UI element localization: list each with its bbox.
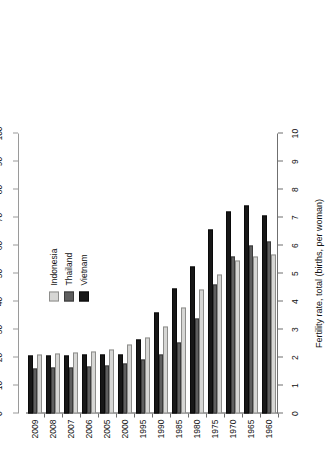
category-tick [44, 413, 45, 417]
category-tick [278, 413, 279, 417]
bar-indonesia-2009 [37, 354, 41, 413]
percent-tick [13, 188, 18, 189]
category-tick [80, 413, 81, 417]
category-label-1985: 1985 [174, 419, 184, 447]
percent-population-axis: 0102030405060708090100 [18, 133, 19, 413]
fertility-tick-label: 1 [290, 372, 300, 398]
legend-item-thailand[interactable]: Thailand [63, 248, 74, 301]
category-label-2006: 2006 [84, 419, 94, 447]
fertility-tick [278, 216, 283, 217]
percent-tick-label: 20 [0, 342, 4, 372]
bar-indonesia-1970 [235, 260, 239, 413]
percent-tick-label: 80 [0, 174, 4, 204]
category-tick [224, 413, 225, 417]
fertility-tick-label: 5 [290, 260, 300, 286]
fertility-tick [278, 244, 283, 245]
fertility-tick [278, 188, 283, 189]
fertility-tick [278, 384, 283, 385]
legend-swatch-thailand [64, 291, 74, 301]
percent-tick [13, 132, 18, 133]
fertility-tick-label: 2 [290, 344, 300, 370]
percent-tick-label: 60 [0, 230, 4, 260]
percent-tick-label: 50 [0, 258, 4, 288]
fertility-tick-label: 8 [290, 176, 300, 202]
bar-indonesia-2008 [55, 353, 59, 413]
percent-tick-label: 100 [0, 118, 4, 148]
category-tick [62, 413, 63, 417]
fertility-tick-label: 7 [290, 204, 300, 230]
category-label-2009: 2009 [30, 419, 40, 447]
legend-swatch-indonesia [49, 291, 59, 301]
percent-tick [13, 272, 18, 273]
legend-item-indonesia[interactable]: Indonesia [48, 248, 59, 301]
percent-tick-label: 40 [0, 286, 4, 316]
fertility-tick [278, 328, 283, 329]
percent-tick-label: 30 [0, 314, 4, 344]
fertility-tick-label: 9 [290, 148, 300, 174]
fertility-tick-label: 0 [290, 400, 300, 426]
percent-tick [13, 412, 18, 413]
fertility-tick [278, 160, 283, 161]
category-label-1990: 1990 [156, 419, 166, 447]
percent-tick [13, 356, 18, 357]
category-tick [260, 413, 261, 417]
percent-tick-label: 10 [0, 370, 4, 400]
percent-tick [13, 160, 18, 161]
fertility-tick [278, 272, 283, 273]
percent-tick [13, 300, 18, 301]
fertility-tick-label: 3 [290, 316, 300, 342]
bar-indonesia-2000 [127, 344, 131, 413]
bar-indonesia-1960 [271, 254, 275, 413]
bar-indonesia-2007 [73, 352, 77, 413]
category-tick [116, 413, 117, 417]
category-tick [152, 413, 153, 417]
chart-legend: IndonesiaThailandVietnam [48, 248, 93, 301]
percent-tick [13, 244, 18, 245]
percent-tick-label: 0 [0, 398, 4, 428]
category-label-2007: 2007 [66, 419, 76, 447]
category-tick [170, 413, 171, 417]
percent-tick-label: 70 [0, 202, 4, 232]
bar-indonesia-1990 [163, 326, 167, 413]
category-label-1975: 1975 [210, 419, 220, 447]
category-label-1995: 1995 [138, 419, 148, 447]
fertility-tick [278, 356, 283, 357]
category-label-1970: 1970 [228, 419, 238, 447]
legend-label-indonesia: Indonesia [49, 248, 59, 285]
legend-label-thailand: Thailand [64, 252, 74, 285]
percent-tick-label: 90 [0, 146, 4, 176]
category-label-2005: 2005 [102, 419, 112, 447]
category-tick [242, 413, 243, 417]
fertility-tick-label: 4 [290, 288, 300, 314]
category-label-2008: 2008 [48, 419, 58, 447]
legend-item-vietnam[interactable]: Vietnam [78, 248, 89, 301]
legend-label-vietnam: Vietnam [79, 254, 89, 285]
bar-indonesia-1995 [145, 337, 149, 413]
chart-stage: 0102030405060708090100 % of population 0… [0, 0, 336, 469]
fertility-tick [278, 132, 283, 133]
category-label-1965: 1965 [246, 419, 256, 447]
fertility-tick-label: 10 [290, 120, 300, 146]
fertility-tick [278, 300, 283, 301]
bar-indonesia-1985 [181, 307, 185, 413]
category-label-2000: 2000 [120, 419, 130, 447]
category-tick [206, 413, 207, 417]
fertility-tick-label: 6 [290, 232, 300, 258]
category-label-1980: 1980 [192, 419, 202, 447]
category-tick [188, 413, 189, 417]
bar-indonesia-1975 [217, 274, 221, 413]
percent-tick [13, 384, 18, 385]
legend-swatch-vietnam [79, 291, 89, 301]
category-label-1960: 1960 [264, 419, 274, 447]
bar-indonesia-2005 [109, 349, 113, 413]
bar-indonesia-2006 [91, 351, 95, 413]
bar-indonesia-1965 [253, 256, 257, 413]
percent-tick [13, 216, 18, 217]
bar-indonesia-1980 [199, 289, 203, 413]
category-tick [98, 413, 99, 417]
category-tick [134, 413, 135, 417]
fertility-axis-title: Fertility rate, total (births, per woman… [314, 133, 324, 413]
percent-tick [13, 328, 18, 329]
